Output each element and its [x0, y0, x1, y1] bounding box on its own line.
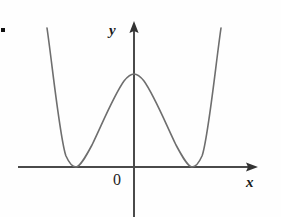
graph-figure: y x 0 — [0, 0, 281, 217]
x-axis-label: x — [246, 175, 254, 190]
coordinate-plot — [0, 0, 281, 217]
y-axis-label: y — [109, 23, 116, 38]
corner-artifact-mark — [1, 28, 5, 32]
origin-label: 0 — [113, 172, 121, 188]
